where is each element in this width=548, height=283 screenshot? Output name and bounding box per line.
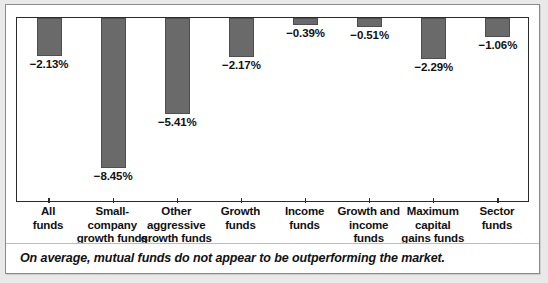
x-axis-category-line: Sector (461, 205, 533, 219)
bar-value-label: −5.41% (143, 116, 211, 128)
x-axis-category-label: Small-companygrowth funds (76, 205, 148, 246)
bar-value-label: −0.39% (272, 27, 340, 39)
x-axis-tick (177, 198, 178, 203)
x-axis-tick (305, 198, 306, 203)
x-axis-category-line: income funds (333, 219, 405, 246)
figure-frame: −2.13%−8.45%−5.41%−2.17%−0.39%−0.51%−2.2… (5, 4, 540, 274)
x-axis-tick (497, 198, 498, 203)
bar (421, 18, 446, 59)
x-axis-category-label: Sectorfunds (461, 205, 533, 232)
x-axis-category-line: All (12, 205, 84, 219)
bar-value-label: −8.45% (79, 170, 147, 182)
x-axis-category-label: Maximumcapitalgains funds (397, 205, 469, 246)
bar (293, 18, 318, 25)
x-axis-category-label: Incomefunds (269, 205, 341, 232)
bar (165, 18, 190, 114)
bar-value-label: −1.06% (464, 39, 532, 51)
x-axis-category-label: Growth andincome funds (333, 205, 405, 246)
x-axis-category-line: capital (397, 219, 469, 233)
figure-root: −2.13%−8.45%−5.41%−2.17%−0.39%−0.51%−2.2… (0, 0, 548, 283)
x-axis-category-line: Small-company (76, 205, 148, 232)
x-axis-category-line: funds (269, 219, 341, 233)
x-axis-tick (433, 198, 434, 203)
x-axis-tick (241, 198, 242, 203)
bar (101, 18, 126, 168)
chart-plot-area: −2.13%−8.45%−5.41%−2.17%−0.39%−0.51%−2.2… (16, 17, 529, 202)
x-axis-category-line: Other (140, 205, 212, 219)
bar (357, 18, 382, 27)
bar-value-label: −2.17% (207, 59, 275, 71)
bar-value-label: −2.13% (15, 58, 83, 70)
x-axis-category-line: Income (269, 205, 341, 219)
x-axis-category-label: Otheraggressivegrowth funds (140, 205, 212, 246)
x-axis-tick (113, 198, 114, 203)
x-axis-category-label: Growthfunds (204, 205, 276, 232)
x-axis-category-line: funds (204, 219, 276, 233)
bar-value-label: −0.51% (336, 29, 404, 41)
x-axis-category-line: funds (12, 219, 84, 233)
bar (485, 18, 510, 37)
bar (37, 18, 62, 56)
x-axis-category-label: Allfunds (12, 205, 84, 232)
x-axis-tick (48, 198, 49, 203)
x-axis-tick (369, 198, 370, 203)
x-axis-category-line: aggressive (140, 219, 212, 233)
caption-text: On average, mutual funds do not appear t… (20, 251, 445, 265)
x-axis-category-line: Growth and (333, 205, 405, 219)
x-axis-category-line: Maximum (397, 205, 469, 219)
x-axis-category-line: Growth (204, 205, 276, 219)
bar (229, 18, 254, 57)
caption-band: On average, mutual funds do not appear t… (6, 243, 539, 273)
bar-value-label: −2.29% (400, 61, 468, 73)
x-axis-category-line: funds (461, 219, 533, 233)
